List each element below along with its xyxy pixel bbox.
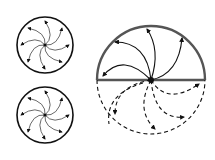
spiral-arrow <box>40 45 45 69</box>
dashed-spiral-arrow <box>151 80 199 94</box>
dashed-spiral-curve <box>109 83 143 124</box>
dashed-spiral-arrow <box>151 80 184 117</box>
dashed-spiral-arrow <box>115 80 151 114</box>
center-dot <box>148 77 154 83</box>
spiral-arrow <box>21 110 45 115</box>
center-dot <box>43 43 46 46</box>
solid-spiral-arrow <box>147 29 155 80</box>
upper-semicircle <box>97 26 205 80</box>
spiral-arrow <box>45 45 69 50</box>
diagram-canvas <box>0 0 215 160</box>
center-dot <box>43 113 46 116</box>
dashed-spiral-arrow <box>144 80 155 129</box>
top-left-vortex <box>17 17 73 73</box>
bottom-left-vortex <box>17 87 73 143</box>
solid-spiral-arrow <box>115 42 151 80</box>
spiral-arrow <box>45 115 69 120</box>
spiral-arrow <box>45 21 50 45</box>
half-vortex <box>97 26 205 134</box>
lower-semicircle <box>97 80 205 134</box>
spiral-arrow <box>45 91 50 115</box>
vortex-diagram <box>0 0 215 160</box>
spiral-arrow <box>21 40 45 45</box>
solid-spiral-arrow <box>103 65 151 80</box>
spiral-arrow <box>40 115 45 139</box>
